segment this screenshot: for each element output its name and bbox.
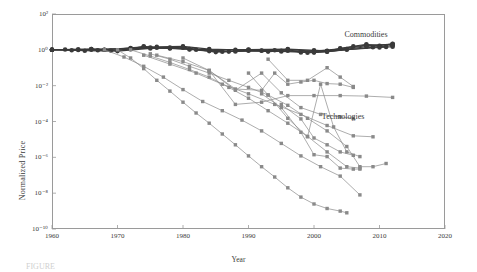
data-point <box>325 155 328 158</box>
data-point <box>247 154 250 157</box>
data-point <box>129 48 132 51</box>
data-point <box>325 66 328 69</box>
data-point <box>162 75 165 78</box>
data-point <box>181 56 184 59</box>
data-point <box>325 143 328 146</box>
data-point <box>168 62 171 65</box>
data-point <box>299 154 302 157</box>
data-point <box>234 103 237 106</box>
data-point <box>299 131 302 134</box>
data-point <box>390 43 395 48</box>
data-point <box>312 94 315 97</box>
data-point <box>365 94 368 97</box>
data-point <box>319 83 322 86</box>
series-group-technologies <box>103 48 395 214</box>
data-point <box>103 48 106 51</box>
data-point <box>371 45 376 50</box>
data-point <box>325 82 328 85</box>
data-point <box>339 166 342 169</box>
data-point <box>299 195 302 198</box>
data-point <box>181 88 184 91</box>
data-point <box>332 125 335 128</box>
data-point <box>371 165 374 168</box>
x-axis-tick-0: 1960 <box>45 232 59 240</box>
data-point <box>155 79 158 82</box>
data-point <box>339 94 342 97</box>
data-point <box>345 165 348 168</box>
data-point <box>208 122 211 125</box>
data-point <box>352 85 355 88</box>
x-axis-tick-1: 1970 <box>111 232 125 240</box>
data-point <box>247 97 250 100</box>
data-point <box>352 154 355 157</box>
y-axis-tick-0: 10² <box>18 10 48 18</box>
data-point <box>299 113 302 116</box>
x-axis-tick-6: 2020 <box>438 232 452 240</box>
data-point <box>201 100 204 103</box>
data-point <box>371 135 374 138</box>
data-point <box>141 44 146 49</box>
data-point <box>286 83 289 86</box>
data-point <box>280 103 283 106</box>
data-point <box>273 71 276 74</box>
series-group-commodities <box>50 41 395 55</box>
data-point <box>260 101 263 104</box>
data-point <box>234 89 237 92</box>
data-point <box>377 45 382 50</box>
data-point <box>325 207 328 210</box>
data-point <box>247 71 250 74</box>
data-point <box>181 101 184 104</box>
data-point <box>221 132 224 135</box>
x-axis-tick-2: 1980 <box>176 232 190 240</box>
data-point <box>325 124 328 127</box>
figure-container: Normalized Price Year 10²10⁰10⁻²10⁻⁴10⁻⁶… <box>0 0 477 272</box>
data-point <box>221 83 224 86</box>
data-point <box>260 129 263 132</box>
x-axis-tick-4: 2000 <box>307 232 321 240</box>
data-point <box>286 104 289 107</box>
data-point <box>279 48 284 53</box>
data-point <box>339 150 342 153</box>
data-point <box>240 118 243 121</box>
x-axis-tick-3: 1990 <box>242 232 256 240</box>
data-point <box>208 69 211 72</box>
series-label-technologies: Technologies <box>322 112 365 121</box>
data-point <box>286 122 289 125</box>
data-point <box>260 165 263 168</box>
data-point <box>260 71 263 74</box>
data-point <box>247 92 250 95</box>
data-point <box>286 79 289 82</box>
data-point <box>286 186 289 189</box>
y-axis-tick-3: 10⁻⁴ <box>18 118 48 126</box>
chart-canvas <box>0 0 477 272</box>
data-point <box>233 49 238 54</box>
y-axis-tick-4: 10⁻⁶ <box>18 153 48 161</box>
data-point <box>50 48 55 53</box>
data-point <box>280 106 283 109</box>
data-point <box>325 129 328 132</box>
data-point <box>339 174 342 177</box>
data-point <box>273 175 276 178</box>
data-point <box>352 167 355 170</box>
data-point <box>339 209 342 212</box>
data-point <box>299 106 302 109</box>
data-point <box>280 142 283 145</box>
data-point <box>260 92 263 95</box>
data-point <box>280 91 283 94</box>
data-point <box>312 153 315 156</box>
y-axis-label: Normalized Price <box>18 116 27 226</box>
data-point <box>194 111 197 114</box>
figure-caption: FIGURE <box>26 262 456 272</box>
data-point <box>122 55 125 58</box>
series-line-tech-polysilicon <box>268 59 353 86</box>
data-point <box>247 86 250 89</box>
data-point <box>339 75 342 78</box>
data-point <box>345 211 348 214</box>
data-point <box>194 71 197 74</box>
data-point <box>181 60 184 63</box>
data-point <box>325 50 330 55</box>
data-point <box>96 48 101 53</box>
series-line-tech-dram <box>118 50 347 213</box>
data-point <box>358 155 361 158</box>
data-point <box>352 134 355 137</box>
